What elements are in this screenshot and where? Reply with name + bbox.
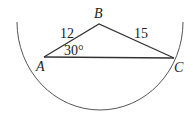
- vertex-label-A: A: [35, 59, 45, 74]
- vertex-label-C: C: [174, 60, 184, 75]
- angle-label-A: 30°: [64, 43, 84, 58]
- side-label-BC: 15: [134, 26, 148, 41]
- side-label-AB: 12: [60, 26, 74, 41]
- vertex-label-B: B: [94, 6, 103, 21]
- triangle-circle-diagram: B A C 12 15 30°: [0, 0, 193, 115]
